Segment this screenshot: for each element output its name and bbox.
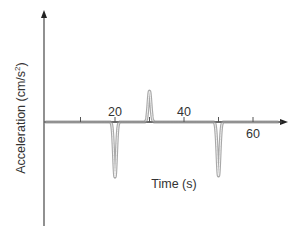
x-tick-label: 60 [246, 127, 260, 141]
x-axis-title: Time (s) [151, 177, 196, 191]
acceleration-chart: 204060 Time (s) Acceleration (cm/s2) [0, 0, 307, 231]
axes [41, 10, 288, 226]
y-axis-arrow-icon [41, 10, 47, 18]
x-tick-label: 20 [108, 105, 122, 119]
y-axis-title-main: Acceleration (cm/s [14, 71, 28, 174]
y-axis-title: Acceleration (cm/s2) [13, 62, 28, 173]
acceleration-line-highlight [46, 91, 278, 177]
y-axis-title-end: ) [14, 62, 28, 66]
x-tick-label: 40 [177, 105, 191, 119]
acceleration-line [46, 91, 278, 177]
